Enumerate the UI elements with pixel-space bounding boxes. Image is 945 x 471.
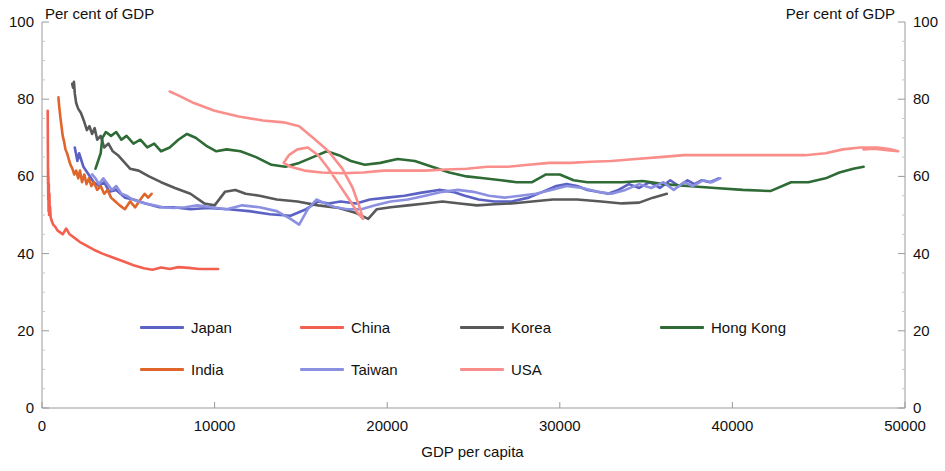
y-tick-right-40: 40 [913,245,945,262]
x-tick-30000: 30000 [515,417,605,434]
y-tick-left-0: 0 [0,399,34,416]
y-tick-left-80: 80 [0,90,34,107]
x-tick-20000: 20000 [342,417,432,434]
series-line-hong-kong [96,132,864,191]
series-line-india [58,97,151,209]
y-tick-right-0: 0 [913,399,945,416]
x-tick-10000: 10000 [170,417,260,434]
y-tick-right-60: 60 [913,167,945,184]
x-tick-0: 0 [0,417,87,434]
y-tick-right-20: 20 [913,322,945,339]
x-tick-40000: 40000 [687,417,777,434]
chart-container: Per cent of GDP Per cent of GDP 02040608… [0,0,945,471]
y-tick-left-20: 20 [0,322,34,339]
y-tick-right-100: 100 [913,13,945,30]
y-tick-left-60: 60 [0,167,34,184]
series-line-china [48,111,218,270]
plot-svg [0,0,945,471]
y-tick-left-40: 40 [0,245,34,262]
x-tick-50000: 50000 [860,417,945,434]
axis-lines [42,22,905,408]
series-lines [48,82,898,270]
y-tick-left-100: 100 [0,13,34,30]
x-axis-title: GDP per capita [0,443,945,460]
y-tick-right-80: 80 [913,90,945,107]
